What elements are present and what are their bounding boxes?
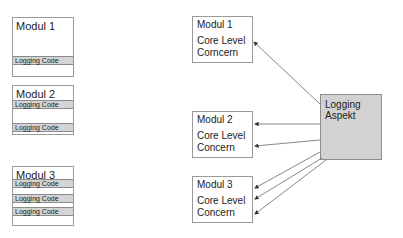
arrow-to-modul-3a xyxy=(255,152,320,188)
arrow-to-modul-1 xyxy=(254,42,320,104)
arrow-to-modul-3b xyxy=(255,158,322,199)
arrows-layer xyxy=(0,0,403,238)
arrow-to-modul-2b xyxy=(255,140,320,146)
